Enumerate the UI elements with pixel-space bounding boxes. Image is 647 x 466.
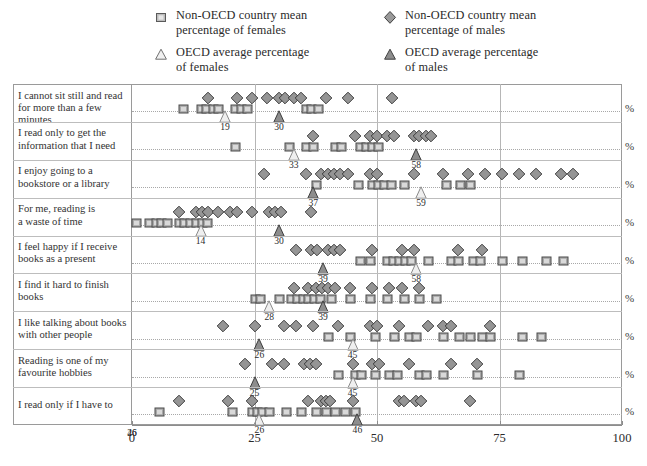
marker-nonoecd-male [230, 205, 244, 223]
marker-nonoecd-male [238, 357, 252, 375]
marker-nonoecd-male [341, 91, 355, 109]
marker-nonoecd-male [387, 129, 401, 147]
triangle-light-icon [153, 46, 169, 62]
marker-nonoecd-male [444, 357, 458, 375]
marker-nonoecd-male [346, 357, 360, 375]
x-tick-mark [377, 421, 378, 425]
legend-item-nonoecd-females: Non-OECD country mean percentage of fema… [153, 8, 307, 37]
marker-nonoecd-female [497, 253, 508, 271]
marker-nonoecd-female [333, 367, 344, 385]
marker-nonoecd-male [245, 91, 259, 109]
legend-item-oecd-females: OECD average percentage of females [153, 45, 309, 74]
x-extra-tick-label: 46 [127, 428, 136, 438]
value-annotation: 19 [220, 121, 230, 132]
marker-nonoecd-male [529, 167, 543, 185]
marker-nonoecd-male [424, 129, 438, 147]
legend-item-oecd-males: OECD average percentage of males [382, 45, 538, 74]
marker-nonoecd-female [154, 404, 165, 422]
marker-nonoecd-male [346, 394, 360, 412]
marker-nonoecd-male [309, 357, 323, 375]
marker-nonoecd-male [274, 205, 288, 223]
marker-nonoecd-male [289, 319, 303, 337]
marker-nonoecd-male [566, 167, 580, 185]
marker-nonoecd-male [172, 394, 186, 412]
marker-nonoecd-male [370, 167, 384, 185]
marker-nonoecd-female [431, 291, 442, 309]
percent-unit-label: % [625, 330, 634, 342]
chart-legend: Non-OECD country mean percentage of fema… [0, 0, 647, 78]
marker-nonoecd-male [407, 243, 421, 261]
x-tick-mark [132, 421, 133, 425]
marker-nonoecd-male [306, 129, 320, 147]
square-light-icon [153, 9, 169, 25]
marker-nonoecd-male [463, 394, 477, 412]
marker-nonoecd-female [264, 404, 275, 422]
marker-nonoecd-female [230, 139, 241, 157]
plot-area: 193033583759143039582839264525452646 I c… [13, 84, 622, 425]
marker-nonoecd-male [495, 167, 509, 185]
marker-nonoecd-female [517, 329, 528, 347]
plot-canvas: 193033583759143039582839264525452646 [132, 84, 622, 425]
diamond-dark-icon [382, 9, 398, 25]
marker-nonoecd-male [414, 394, 428, 412]
percent-unit-label: % [625, 216, 634, 228]
marker-nonoecd-female [281, 404, 292, 422]
value-annotation: 33 [289, 159, 299, 170]
marker-nonoecd-female [423, 253, 434, 271]
row-separator [13, 160, 622, 161]
x-tick-mark [500, 421, 501, 425]
marker-nonoecd-female [514, 367, 525, 385]
row-label: Reading is one of my favourite hobbies [18, 355, 130, 380]
marker-nonoecd-male [461, 167, 475, 185]
marker-nonoecd-male [436, 167, 450, 185]
row-label: I read only to get the information that … [18, 127, 130, 152]
x-tick-mark [622, 421, 623, 425]
percent-unit-label: % [625, 292, 634, 304]
marker-nonoecd-female [517, 253, 528, 271]
row-label: I feel happy if I receive books as a pre… [18, 241, 130, 266]
legend-item-nonoecd-males: Non-OECD country mean percentage of male… [382, 8, 536, 37]
marker-nonoecd-male [201, 91, 215, 109]
value-annotation: 28 [264, 311, 274, 322]
marker-nonoecd-female [178, 101, 189, 119]
row-separator [13, 273, 622, 274]
percent-unit-label: % [625, 178, 634, 190]
marker-nonoecd-male [412, 281, 426, 299]
x-tick-label: 50 [371, 431, 384, 446]
x-tick-mark [255, 421, 256, 425]
marker-nonoecd-male [395, 281, 409, 299]
value-annotation: 30 [274, 235, 284, 246]
marker-nonoecd-male [512, 167, 526, 185]
row-label: I read only if I have to [18, 399, 130, 411]
marker-nonoecd-male [402, 357, 416, 375]
marker-nonoecd-female [131, 215, 142, 233]
percent-unit-label: % [625, 102, 634, 114]
marker-nonoecd-male [328, 281, 342, 299]
marker-nonoecd-male [319, 91, 333, 109]
marker-nonoecd-male [323, 394, 337, 412]
percent-unit-label: % [625, 368, 634, 380]
marker-nonoecd-female [274, 291, 285, 309]
marker-nonoecd-male [483, 319, 497, 337]
row-separator [13, 236, 622, 237]
marker-nonoecd-male [287, 281, 301, 299]
x-tick-label: 100 [613, 431, 632, 446]
legend-label-oecd-females: OECD average percentage of females [176, 45, 309, 74]
marker-nonoecd-male [475, 243, 489, 261]
value-annotation: 26 [255, 349, 265, 360]
marker-nonoecd-male [216, 319, 230, 337]
marker-nonoecd-male [470, 357, 484, 375]
marker-nonoecd-male [421, 319, 435, 337]
marker-nonoecd-male [304, 205, 318, 223]
marker-nonoecd-male [444, 319, 458, 337]
marker-nonoecd-male [306, 319, 320, 337]
marker-nonoecd-male [230, 91, 244, 109]
marker-nonoecd-male [365, 281, 379, 299]
marker-nonoecd-male [407, 167, 421, 185]
row-separator [13, 198, 622, 199]
marker-nonoecd-male [451, 243, 465, 261]
marker-nonoecd-female [536, 329, 547, 347]
x-axis: 02550751002646 [132, 425, 622, 427]
marker-nonoecd-female [386, 177, 397, 195]
row-separator [13, 122, 622, 123]
